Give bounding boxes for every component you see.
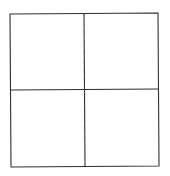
grid-diagram [0,0,170,176]
